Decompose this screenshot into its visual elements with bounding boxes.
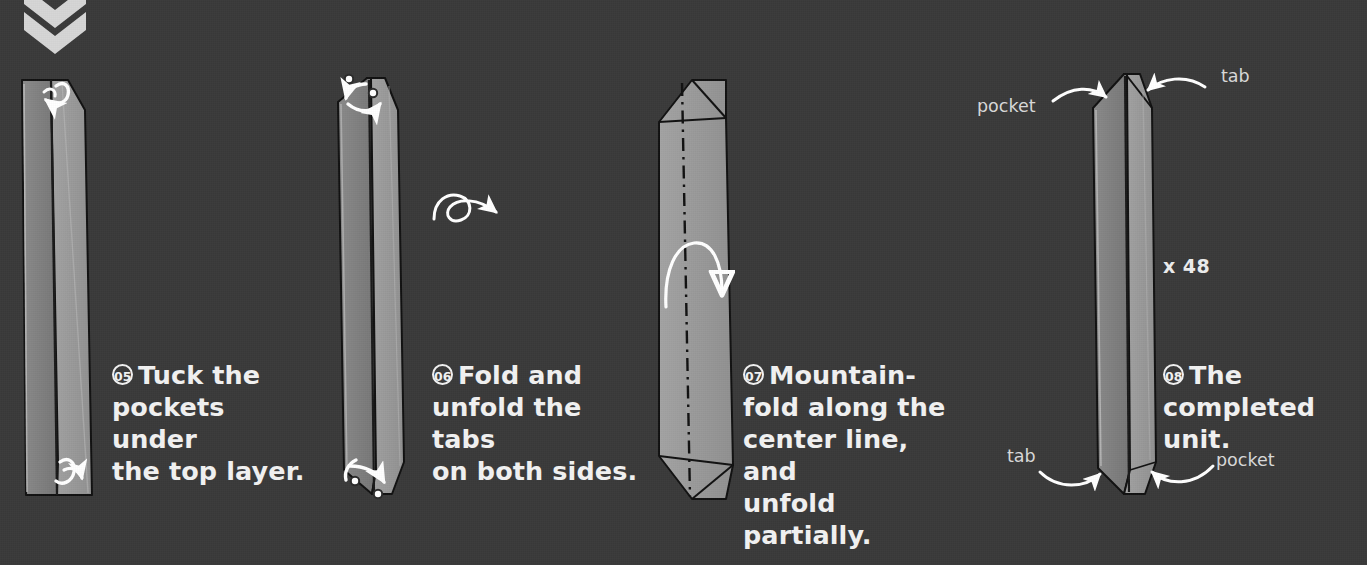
step-08-caption: 08The completed unit. [1163,327,1363,455]
callout-arrow-pocket-bottom [1152,466,1213,482]
step-05-number: 05 [112,364,133,385]
step-07-number: 07 [743,364,764,385]
callout-label-pocket-top: pocket [977,96,1036,116]
step-07-text: Mountain- fold along the center line, an… [743,360,945,550]
callout-arrow-tab-bottom [1040,472,1100,485]
origami-instruction-page: 05Tuck the pockets under the top layer. … [0,0,1367,565]
callout-label-tab-top: tab [1221,66,1250,86]
callout-arrow-tab-top [1148,79,1205,90]
callout-label-tab-bottom: tab [1007,446,1036,466]
step-05-diagram [22,80,92,495]
step-08-number: 08 [1163,364,1184,385]
unit-quantity-label: x 48 [1163,255,1210,277]
step-06-number: 06 [432,364,453,385]
step-05-text: Tuck the pockets under the top layer. [112,360,304,486]
step-08-text: The completed unit. [1163,360,1315,454]
step-07-diagram [659,80,733,499]
turn-over-symbol [434,195,496,221]
step-06-text: Fold and unfold the tabs on both sides. [432,360,637,486]
callout-label-pocket-bottom: pocket [1216,450,1275,470]
step-07-caption: 07Mountain- fold along the center line, … [743,327,963,551]
callout-arrow-pocket-top [1053,89,1106,101]
step-06-caption: 06Fold and unfold the tabs on both sides… [432,327,647,487]
double-chevron-down-icon [24,0,86,54]
step-05-caption: 05Tuck the pockets under the top layer. [112,327,317,487]
